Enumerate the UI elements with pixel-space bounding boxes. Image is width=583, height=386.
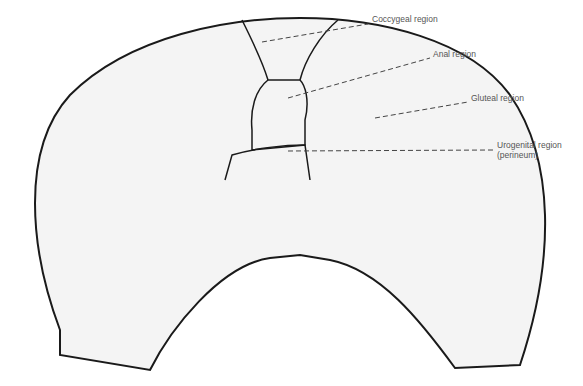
region-outline-drawing [0,0,583,386]
diagram-canvas: Coccygeal region Anal region Gluteal reg… [0,0,583,386]
label-urogenital-subtitle: (perineum) [497,150,538,160]
body-silhouette-outline [35,18,545,370]
label-gluteal-region: Gluteal region [471,93,524,103]
label-anal-region: Anal region [433,49,476,59]
label-coccygeal-region: Coccygeal region [372,14,438,24]
label-urogenital-region: Urogenital region [497,140,562,150]
